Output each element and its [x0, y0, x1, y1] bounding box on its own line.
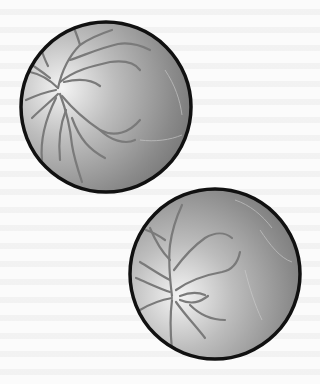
lower-fundus: [130, 189, 300, 359]
upper-fundus: [21, 22, 191, 192]
fundus-illustrations: [0, 0, 320, 384]
